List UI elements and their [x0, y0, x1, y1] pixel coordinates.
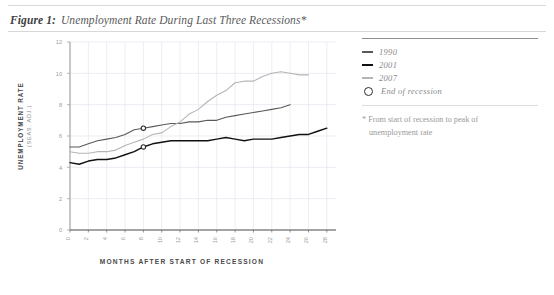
y-axis-tick-labels: 024681012: [56, 39, 62, 233]
svg-text:0: 0: [59, 227, 62, 233]
svg-text:12: 12: [56, 39, 62, 45]
figure-number: Figure 1:: [10, 14, 56, 26]
footnote-line-1: * From start of recession to peak of: [362, 115, 478, 124]
legend-item-1990[interactable]: 1990: [362, 46, 542, 58]
y-axis-title: UNEMPLOYMENT RATE (SEAS. ADJ.): [17, 71, 33, 181]
line-swatch-icon: [362, 77, 373, 79]
legend-rule: [362, 38, 538, 39]
legend-item-end-of-recession[interactable]: End of recession: [362, 85, 542, 97]
svg-text:26: 26: [303, 237, 309, 243]
legend-item-2007[interactable]: 2007: [362, 72, 542, 84]
gridlines: [70, 42, 336, 230]
figure-title-text: Unemployment Rate During Last Three Rece…: [61, 14, 306, 26]
svg-text:4: 4: [59, 165, 62, 171]
x-axis-tick-labels: 0246810121416182022242628: [65, 237, 328, 243]
svg-text:2: 2: [59, 196, 62, 202]
footnote-rule: [362, 105, 538, 106]
legend-item-2001[interactable]: 2001: [362, 59, 542, 71]
svg-text:20: 20: [248, 237, 254, 243]
axis-lines: [67, 42, 336, 233]
svg-text:12: 12: [175, 237, 181, 243]
legend-label: End of recession: [381, 86, 442, 96]
title-rule-bottom: [8, 31, 546, 32]
svg-text:22: 22: [267, 237, 273, 243]
svg-text:16: 16: [212, 237, 218, 243]
figure-title: Figure 1: Unemployment Rate During Last …: [10, 10, 544, 30]
svg-text:18: 18: [230, 237, 236, 243]
svg-text:28: 28: [322, 237, 328, 243]
svg-text:6: 6: [59, 133, 62, 139]
line-swatch-icon: [362, 64, 373, 66]
chart-plot-area: UNEMPLOYMENT RATE (SEAS. ADJ.) 024681012…: [0, 36, 360, 286]
title-rule-top: [8, 5, 546, 6]
svg-text:4: 4: [102, 237, 108, 240]
svg-text:0: 0: [65, 237, 71, 240]
line-chart-svg: 024681012 0246810121416182022242628: [48, 36, 348, 261]
footnote-line-2: unemployment rate: [362, 127, 522, 140]
footnote: * From start of recession to peak of une…: [362, 114, 522, 139]
line-swatch-icon: [362, 51, 373, 53]
legend-panel: 1990 2001 2007 End of recession * From s…: [362, 38, 542, 139]
y-axis-title-main: UNEMPLOYMENT RATE: [17, 71, 26, 181]
svg-text:24: 24: [285, 237, 291, 243]
circle-marker-icon: [364, 87, 373, 96]
y-axis-title-sub: (SEAS. ADJ.): [25, 71, 33, 181]
svg-text:2: 2: [83, 237, 89, 240]
legend-label: 1990: [379, 47, 397, 57]
svg-text:6: 6: [120, 237, 126, 240]
legend-label: 2001: [379, 60, 397, 70]
svg-text:14: 14: [193, 237, 199, 243]
svg-text:10: 10: [56, 71, 62, 77]
svg-text:10: 10: [157, 237, 163, 243]
svg-text:8: 8: [59, 102, 62, 108]
svg-text:8: 8: [138, 237, 144, 240]
legend-label: 2007: [379, 73, 397, 83]
x-axis-title: MONTHS AFTER START OF RECESSION: [48, 258, 316, 265]
